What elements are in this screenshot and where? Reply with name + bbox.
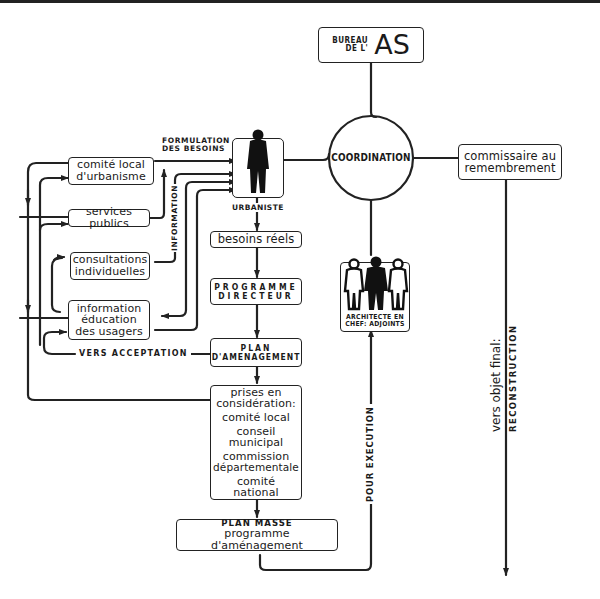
programme-directeur-box: PROGRAMME DIRECTEUR bbox=[210, 278, 302, 305]
formulation-label: FORMULATION DES BESOINS bbox=[162, 137, 230, 154]
bureau-as-text: AS bbox=[374, 31, 410, 59]
architecte-line2: CHEF: ADJOINTS bbox=[345, 321, 405, 328]
coordination-label: COORDINATION bbox=[329, 151, 412, 163]
prises-line5: municipal bbox=[229, 437, 284, 448]
commissaire-line2: remembrement bbox=[464, 162, 555, 174]
formulation-line2: DES BESOINS bbox=[162, 145, 230, 153]
plan-amenagement-line2: D'AMENAGEMENT bbox=[212, 353, 301, 362]
prises-line9: national bbox=[233, 487, 278, 498]
consultations-line2: individuelles bbox=[75, 266, 145, 278]
architecte-box: ARCHITECTE EN CHEF: ADJOINTS bbox=[340, 262, 410, 332]
programme-line2: DIRECTEUR bbox=[218, 292, 293, 301]
architecte-group-icon bbox=[341, 255, 411, 311]
urbaniste-person-icon bbox=[236, 129, 280, 195]
services-publics-label: services publics bbox=[69, 206, 149, 229]
urbaniste-box bbox=[232, 138, 284, 198]
vers-objet-final-label: vers objet final: bbox=[489, 338, 503, 432]
vers-acceptation-label: VERS ACCEPTATION bbox=[76, 349, 191, 358]
information-edge-label: INFORMATION bbox=[170, 184, 179, 252]
plan-masse-box: PLAN MASSE programme d'aménagement bbox=[176, 519, 338, 551]
bureau-line2: DE L' bbox=[345, 45, 368, 53]
besoins-reels-label: besoins réels bbox=[218, 233, 295, 245]
besoins-reels-box: besoins réels bbox=[210, 231, 302, 248]
bureau-as-box: BUREAU DE L' AS bbox=[318, 27, 424, 63]
services-publics-box: services publics bbox=[68, 209, 150, 227]
prises-line2: considération: bbox=[216, 398, 296, 409]
reconstruction-label: RECONSTRUCTION bbox=[508, 325, 518, 432]
consultations-box: consultations individuelles bbox=[70, 252, 150, 280]
plan-amenagement-box: PLAN D'AMENAGEMENT bbox=[210, 338, 302, 367]
prises-line3: comité local bbox=[222, 412, 290, 423]
urbaniste-label: URBANISTE bbox=[232, 203, 284, 212]
prises-consideration-box: prises en considération: comité local co… bbox=[210, 385, 302, 500]
commissaire-box: commissaire au remembrement bbox=[458, 144, 562, 180]
comite-local-urbanisme-box: comité local d'urbanisme bbox=[68, 157, 154, 185]
prises-line7: départementale bbox=[213, 462, 299, 473]
plan-masse-line2: programme d'aménagement bbox=[177, 528, 337, 551]
pour-execution-label: POUR EXECUTION bbox=[365, 404, 375, 504]
information-line3: des usagers bbox=[75, 326, 143, 338]
information-usagers-box: information éducation des usagers bbox=[68, 300, 150, 340]
comite-local-line2: d'urbanisme bbox=[76, 171, 146, 183]
diagram-canvas: BUREAU DE L' AS COORDINATION commissaire… bbox=[0, 0, 600, 599]
